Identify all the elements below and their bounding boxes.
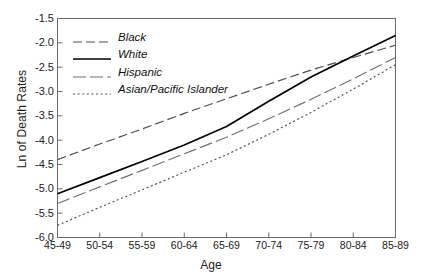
- legend-swatch-icon: [72, 50, 112, 60]
- legend: BlackWhiteHispanicAsian/Pacific Islander: [72, 30, 228, 98]
- legend-item-hispanic: Hispanic: [72, 65, 228, 80]
- legend-label: Black: [118, 32, 146, 44]
- legend-item-black: Black: [72, 30, 228, 45]
- legend-swatch-icon: [72, 68, 112, 78]
- line-chart: Ln of Death Rates Age -1.5-2.0-2.5-3.0-3…: [0, 0, 422, 280]
- legend-label: Hispanic: [118, 67, 162, 79]
- legend-item-asian-pacific-islander: Asian/Pacific Islander: [72, 83, 228, 98]
- legend-swatch-icon: [72, 33, 112, 43]
- legend-swatch-icon: [72, 85, 112, 95]
- legend-label: White: [118, 49, 147, 61]
- legend-item-white: White: [72, 48, 228, 63]
- legend-label: Asian/Pacific Islander: [118, 84, 228, 96]
